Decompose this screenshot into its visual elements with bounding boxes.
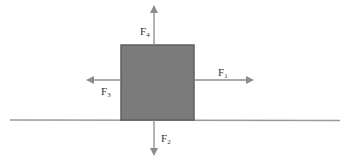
force-label-f1: F1 <box>218 66 228 80</box>
force-label-f2: F2 <box>161 132 171 146</box>
block <box>121 45 194 120</box>
force-label-f4: F4 <box>140 25 150 39</box>
free-body-diagram: F1 F2 F3 F4 <box>0 0 344 165</box>
force-label-f3: F3 <box>101 85 111 99</box>
